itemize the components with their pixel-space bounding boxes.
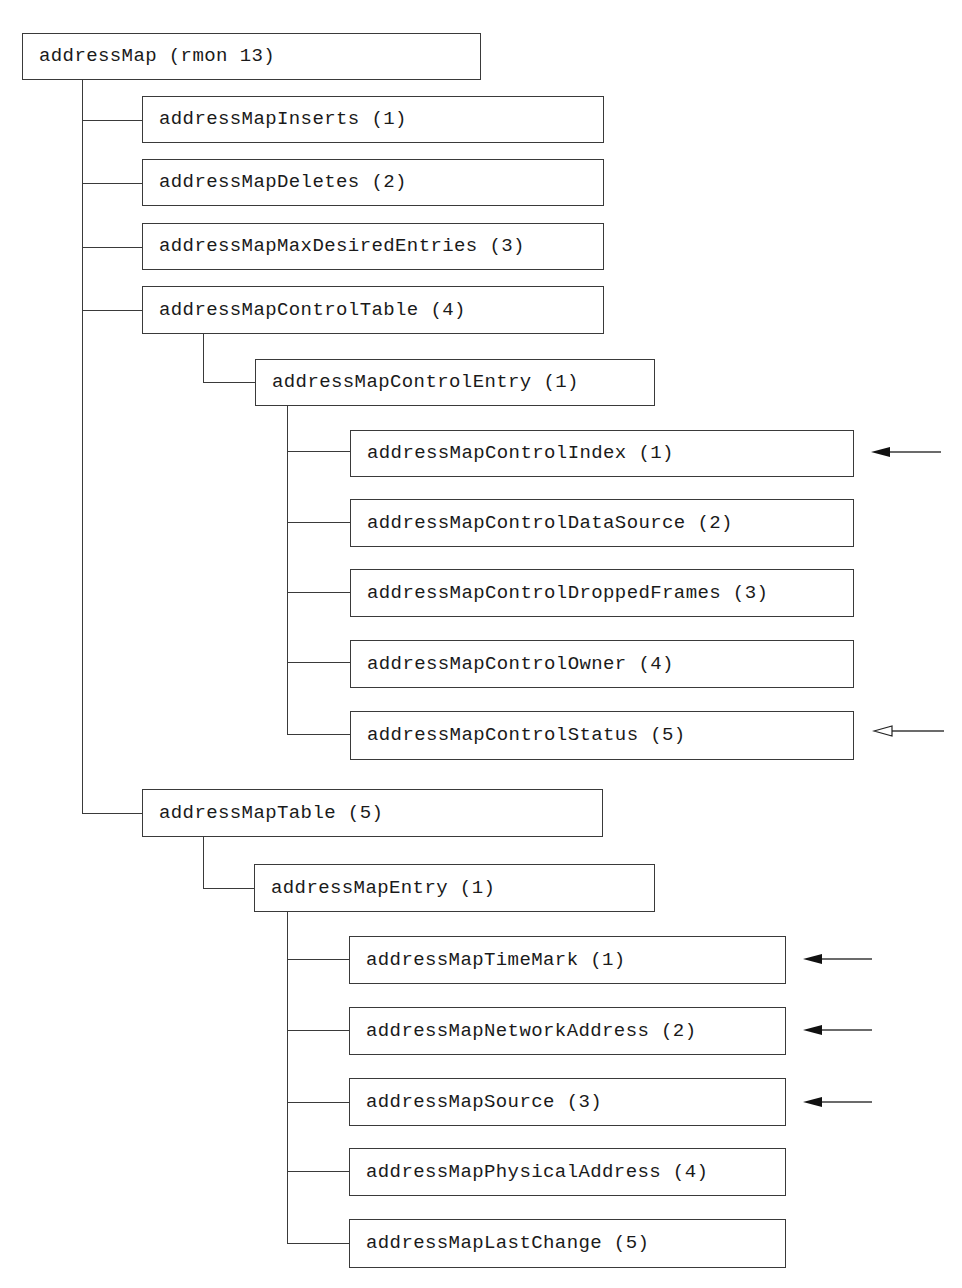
connector-control-entry <box>203 382 256 383</box>
node-address-map-control-dropped-frames: addressMapControlDroppedFrames (3) <box>350 569 854 617</box>
connector-address-map-table <box>82 813 143 814</box>
node-address-map-control-table: addressMapControlTable (4) <box>142 286 604 334</box>
node-address-map-time-mark: addressMapTimeMark (1) <box>349 936 786 984</box>
connector-control-entry-trunk <box>287 406 288 735</box>
connector-deletes <box>82 183 143 184</box>
connector-root-trunk <box>82 80 83 814</box>
connector-control-owner <box>287 662 351 663</box>
hollow-arrow-icon <box>872 723 944 739</box>
node-address-map-last-change: addressMapLastChange (5) <box>349 1219 786 1268</box>
connector-control-dropped-frames <box>287 592 351 593</box>
node-address-map-control-owner: addressMapControlOwner (4) <box>350 640 854 688</box>
connector-time-mark <box>287 959 350 960</box>
connector-last-change <box>287 1243 350 1244</box>
node-address-map-control-data-source: addressMapControlDataSource (2) <box>350 499 854 547</box>
node-address-map-control-entry: addressMapControlEntry (1) <box>255 359 655 406</box>
connector-control-index <box>287 451 351 452</box>
node-address-map-table: addressMapTable (5) <box>142 789 603 837</box>
connector-source <box>287 1102 350 1103</box>
node-address-map-inserts: addressMapInserts (1) <box>142 96 604 143</box>
node-address-map-control-status: addressMapControlStatus (5) <box>350 711 854 760</box>
filled-arrow-icon <box>802 951 872 967</box>
connector-inserts <box>82 120 143 121</box>
connector-network-address <box>287 1030 350 1031</box>
connector-table-entry <box>203 888 255 889</box>
node-address-map-physical-address: addressMapPhysicalAddress (4) <box>349 1148 786 1196</box>
node-address-map-source: addressMapSource (3) <box>349 1078 786 1126</box>
node-address-map-max-desired-entries: addressMapMaxDesiredEntries (3) <box>142 223 604 270</box>
filled-arrow-icon <box>802 1094 872 1110</box>
connector-control-table <box>82 310 143 311</box>
connector-max-desired <box>82 247 143 248</box>
connector-control-table-down <box>203 334 204 383</box>
connector-control-status <box>287 734 351 735</box>
filled-arrow-icon <box>802 1022 872 1038</box>
node-address-map-entry: addressMapEntry (1) <box>254 864 655 912</box>
node-address-map-root: addressMap (rmon 13) <box>22 33 481 80</box>
node-address-map-deletes: addressMapDeletes (2) <box>142 159 604 206</box>
connector-table-down <box>203 837 204 889</box>
connector-physical-address <box>287 1171 350 1172</box>
filled-arrow-icon <box>870 444 942 460</box>
connector-table-entry-trunk <box>287 912 288 1244</box>
connector-control-data-source <box>287 522 351 523</box>
node-address-map-control-index: addressMapControlIndex (1) <box>350 430 854 477</box>
node-address-map-network-address: addressMapNetworkAddress (2) <box>349 1007 786 1055</box>
